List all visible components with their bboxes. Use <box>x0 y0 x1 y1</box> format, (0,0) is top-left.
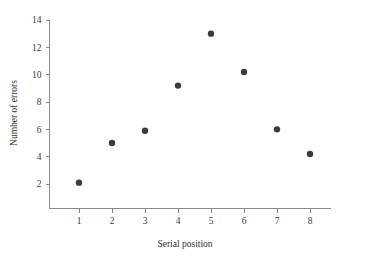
data-point <box>274 126 280 132</box>
x-tick-label: 1 <box>77 216 82 226</box>
x-tick-label: 8 <box>308 216 313 226</box>
x-tick-label: 7 <box>275 216 280 226</box>
scatter-plot-figure: 2468101214 12345678 Serial position Numb… <box>0 0 370 261</box>
data-point <box>76 179 82 185</box>
x-axis-ticks: 12345678 <box>77 209 313 226</box>
y-tick-label: 4 <box>37 152 42 162</box>
x-tick-label: 5 <box>209 216 214 226</box>
y-tick-label: 10 <box>32 70 42 80</box>
data-point <box>175 82 181 88</box>
x-tick-label: 3 <box>143 216 148 226</box>
y-tick-label: 12 <box>32 43 42 53</box>
x-axis-title: Serial position <box>157 239 212 249</box>
data-point <box>241 69 247 75</box>
data-point <box>142 128 148 134</box>
y-axis-ticks: 2468101214 <box>32 15 50 189</box>
data-point <box>307 151 313 157</box>
y-tick-label: 2 <box>37 179 42 189</box>
y-tick-label: 6 <box>37 125 42 135</box>
plot-canvas: 2468101214 12345678 Serial position Numb… <box>0 0 370 261</box>
y-tick-label: 8 <box>37 97 42 107</box>
y-axis-title: Number of errors <box>9 80 19 146</box>
y-tick-label: 14 <box>32 15 42 25</box>
data-points <box>76 30 313 185</box>
x-tick-label: 2 <box>110 216 115 226</box>
x-tick-label: 6 <box>242 216 247 226</box>
data-point <box>208 30 214 36</box>
data-point <box>109 140 115 146</box>
x-tick-label: 4 <box>176 216 181 226</box>
